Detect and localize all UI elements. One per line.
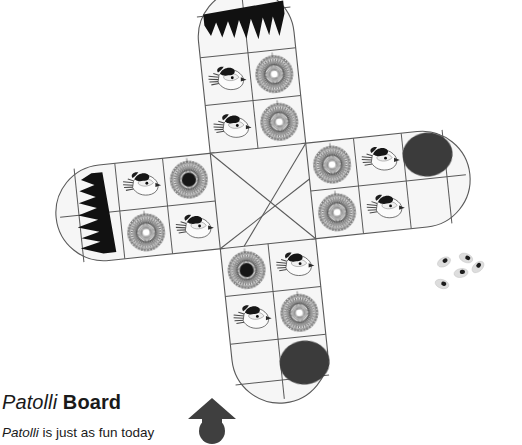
bean-die [453,267,468,278]
bean-die [436,255,452,269]
caption-title-kind: Board [63,391,121,413]
bean-die [458,251,474,264]
patolli-beans [434,251,486,290]
caption-title: Patolli Board [2,390,262,414]
caption-subtitle-term: Patolli [2,425,39,440]
patolli-figure: Patolli Board Patolli is just as fun tod… [0,0,522,445]
figure-caption: Patolli Board Patolli is just as fun tod… [2,390,262,441]
patolli-board-illustration [0,0,522,445]
caption-subtitle-rest: is just as fun today [39,425,155,440]
patolli-cross-board [34,0,491,425]
caption-title-term: Patolli [2,391,57,413]
bean-die [434,278,450,291]
caption-subtitle: Patolli is just as fun today [2,414,262,441]
